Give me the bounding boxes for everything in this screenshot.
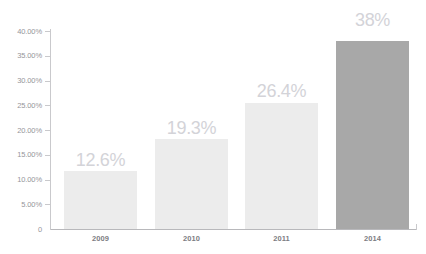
x-axis-label-2009: 2009 xyxy=(64,234,137,243)
y-axis-label-30: 30.00% xyxy=(17,77,42,85)
bar-value-2011: 26.4% xyxy=(245,82,318,100)
x-axis-line xyxy=(51,229,417,230)
y-axis-label-20: 20.00% xyxy=(17,127,42,135)
y-axis-label-5: 5.00% xyxy=(21,201,42,209)
y-axis-label-15: 15.00% xyxy=(17,151,42,159)
bar-2009[interactable] xyxy=(64,171,137,229)
y-axis-label-40: 40.00% xyxy=(17,28,42,36)
bar-2011[interactable] xyxy=(245,103,318,229)
y-axis-label-10: 10.00% xyxy=(17,176,42,184)
bar-2014[interactable] xyxy=(336,41,409,229)
bar-value-2014: 38% xyxy=(336,11,409,29)
x-axis-label-2010: 2010 xyxy=(155,234,228,243)
x-axis-label-2014: 2014 xyxy=(336,234,409,243)
plot-area xyxy=(51,31,417,229)
x-axis-label-2011: 2011 xyxy=(245,234,318,243)
y-axis-label-25: 25.00% xyxy=(17,102,42,110)
bar-value-2009: 12.6% xyxy=(64,151,137,169)
y-axis-label-35: 35.00% xyxy=(17,52,42,60)
bar-value-2010: 19.3% xyxy=(155,119,228,137)
bar-chart: 40.00% 35.00% 30.00% 25.00% 20.00% 15.00… xyxy=(0,0,426,254)
bar-2010[interactable] xyxy=(155,139,228,229)
y-axis-label-0: 0 xyxy=(38,226,42,234)
